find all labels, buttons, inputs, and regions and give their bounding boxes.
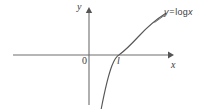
x-axis-label: x	[171, 60, 175, 70]
one-tick-label: l	[117, 56, 120, 66]
equation-function: log	[175, 7, 188, 17]
origin-label: 0	[82, 56, 87, 66]
curve-equation-label: y=logx	[164, 8, 193, 18]
equation-lhs: y	[164, 7, 169, 17]
equation-argument: x	[188, 7, 193, 17]
y-axis-label: y	[77, 2, 81, 12]
